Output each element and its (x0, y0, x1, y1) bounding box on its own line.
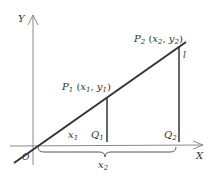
origin-label: O (22, 152, 30, 162)
x2-brace (38, 147, 176, 157)
q2-label: Q2 (164, 129, 177, 142)
x1-label: x1 (68, 129, 78, 142)
p1-label: P1 (x1, y1) (61, 81, 111, 94)
diagram-canvas: Y X O l P1 (x1, y1) P2 (x2, y2) Q1 Q2 x1… (0, 0, 211, 176)
x2-label: x2 (98, 159, 109, 172)
line-l-label: l (183, 50, 186, 60)
p2-label: P2 (x2, y2) (133, 33, 183, 46)
y-axis-label: Y (18, 13, 26, 24)
q1-label: Q1 (91, 129, 104, 142)
x-axis-label: X (195, 150, 204, 161)
